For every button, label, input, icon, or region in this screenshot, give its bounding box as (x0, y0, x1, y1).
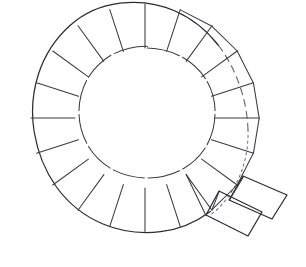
inner-circle-arc-b (183, 57, 206, 78)
segment-cap-06 (237, 153, 253, 185)
segment-cap-05 (254, 118, 260, 153)
outer-arc-dashed-group (219, 46, 249, 130)
inner-circle-arc-l (114, 46, 147, 53)
inner-circle-arc-k (89, 55, 111, 77)
radial-divider-10 (167, 185, 181, 227)
radial-divider-05 (212, 83, 254, 97)
separation-stroke-upper (212, 191, 219, 209)
separation-stroke-lower (229, 176, 243, 200)
radial-divider-15 (37, 140, 79, 154)
ring-gap-edge (186, 175, 206, 216)
radial-divider-03 (186, 26, 212, 62)
radial-divider-08 (202, 159, 238, 185)
inner-circle-arc-a (148, 48, 180, 56)
inner-circle-arc-j (79, 81, 87, 111)
radial-divider-18 (53, 51, 89, 77)
diagram-canvas (0, 0, 306, 267)
radial-divider-17 (37, 83, 79, 97)
inner-circle-arc-f (148, 171, 179, 178)
segment-outer-caps-group (180, 10, 259, 210)
inner-circle-arc-e (183, 148, 205, 169)
inner-circle-arc-i (79, 114, 87, 143)
detached-block-upper (229, 176, 287, 219)
detached-block-lower (206, 191, 262, 236)
radial-divider-19 (78, 26, 104, 62)
segment-cap-03 (237, 51, 253, 83)
radial-divider-13 (78, 175, 104, 211)
radial-divider-12 (110, 185, 124, 227)
segment-cap-02 (212, 26, 237, 51)
radial-divider-09 (186, 175, 212, 211)
segmented-ring-diagram (0, 0, 306, 267)
segment-cap-04 (254, 83, 260, 118)
radial-divider-20 (110, 10, 124, 52)
radial-divider-02 (167, 10, 181, 52)
detached-blocks-group (206, 176, 287, 236)
inner-circle-arc-h (89, 147, 111, 169)
radial-divider-04 (202, 51, 238, 77)
inner-circle-group (79, 46, 215, 178)
outer-arc-solid-group (33, 2, 219, 232)
inner-circle-arc-g (113, 170, 144, 178)
separation-strokes-group (186, 175, 243, 216)
dashed-outer-arc (219, 46, 249, 130)
solid-outer-arc (33, 2, 219, 232)
radial-divider-14 (53, 159, 89, 185)
